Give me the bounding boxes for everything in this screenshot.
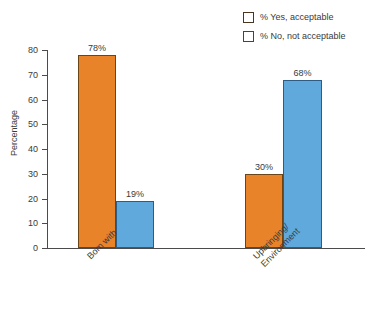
bar-born-with-yes-acceptable: 78% xyxy=(78,55,116,248)
legend-label-no-not-acceptable: % No, not acceptable xyxy=(260,31,346,42)
y-tick-label-30: 30 xyxy=(16,170,38,179)
y-tick-label-20: 20 xyxy=(16,195,38,204)
bar-value-label: 68% xyxy=(293,68,311,78)
y-tick-label-0: 0 xyxy=(16,244,38,253)
plot-area: 78% 19% 30% 68% xyxy=(48,50,365,248)
legend-item-no-not-acceptable: % No, not acceptable xyxy=(243,30,346,43)
y-tick-label-60: 60 xyxy=(16,96,38,105)
bar-born-with-no-not-acceptable: 19% xyxy=(116,201,154,248)
legend-label-yes-acceptable: % Yes, acceptable xyxy=(260,12,334,23)
bar-value-label: 19% xyxy=(126,189,144,199)
chart-legend: % Yes, acceptable % No, not acceptable xyxy=(243,11,346,43)
y-tick-0 xyxy=(42,248,48,249)
y-tick-label-50: 50 xyxy=(16,120,38,129)
bar-chart: % Yes, acceptable % No, not acceptable P… xyxy=(0,0,373,316)
y-tick-label-70: 70 xyxy=(16,71,38,80)
legend-swatch-icon-blue xyxy=(243,31,254,42)
bar-value-label: 30% xyxy=(255,162,273,172)
legend-item-yes-acceptable: % Yes, acceptable xyxy=(243,11,346,24)
y-tick-label-80: 80 xyxy=(16,46,38,55)
y-axis-title: Percentage xyxy=(9,93,19,173)
y-tick-label-40: 40 xyxy=(16,145,38,154)
y-tick-label-10: 10 xyxy=(16,219,38,228)
bar-value-label: 78% xyxy=(88,43,106,53)
legend-swatch-icon-orange xyxy=(243,12,254,23)
